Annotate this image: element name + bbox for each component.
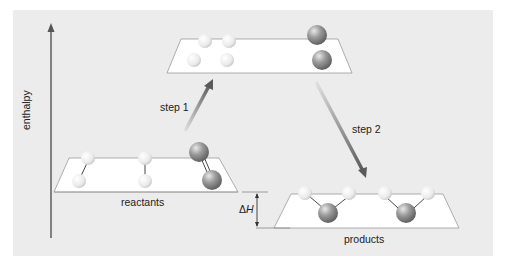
step2-label: step 2 — [352, 123, 381, 135]
reactants-level — [54, 142, 238, 192]
enthalpy-axis — [48, 23, 55, 238]
delta-h-label: ΔH — [239, 203, 254, 215]
intermediate-level — [167, 25, 352, 73]
products-label: products — [344, 233, 384, 245]
reactants-label: reactants — [121, 196, 164, 208]
step1-label: step 1 — [160, 101, 189, 113]
delta-symbol: Δ — [239, 203, 246, 215]
step1-arrow — [185, 79, 213, 131]
enthalpy-variable: H — [246, 203, 254, 215]
enthalpy-axis-label: enthalpy — [20, 90, 32, 130]
products-level — [274, 186, 459, 228]
enthalpy-diagram — [0, 0, 507, 264]
